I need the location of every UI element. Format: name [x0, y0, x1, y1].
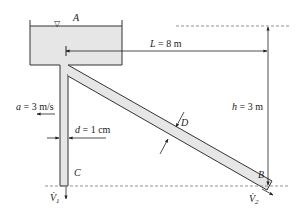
height-label: h = 3 m	[232, 101, 263, 112]
length-label: L = 8 m	[149, 38, 182, 49]
vertical-pipe	[60, 65, 68, 186]
flow-label-v1: V̇1	[50, 192, 60, 205]
fluid-tank-diagram: ▽ A L = 8 m h = 3 m a = 3 m/s d = 1 cm D…	[0, 0, 297, 219]
outlet-label-b: B	[258, 169, 264, 180]
tank	[30, 20, 122, 65]
large-diameter-label: D	[180, 117, 189, 128]
free-surface-symbol: ▽	[54, 19, 61, 28]
small-diameter-label: d = 1 cm	[75, 124, 111, 135]
acceleration-label: a = 3 m/s	[16, 101, 54, 112]
outlet-label-c: C	[74, 167, 81, 178]
flow-label-v2: V̇2	[249, 193, 259, 206]
large-diameter-arrow-bottom	[160, 139, 168, 154]
tank-label-a: A	[72, 12, 80, 23]
